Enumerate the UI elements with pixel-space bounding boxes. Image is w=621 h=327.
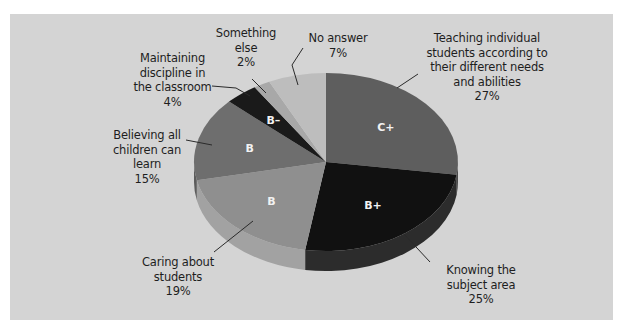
label-teaching: Teaching individual students according t… [412,31,562,104]
grade-label: B [245,142,253,155]
label-knowing: Knowing the subject area 25% [426,263,536,307]
grade-label: B– [266,114,280,127]
label-believing: Believing all children can learn 15% [102,128,192,186]
grade-label: C+ [377,121,394,134]
label-caring: Caring about students 19% [128,255,228,299]
grade-label: B+ [364,199,382,212]
grade-label: B [267,195,275,208]
label-no-answer: No answer 7% [298,31,378,60]
label-something-else: Something else 2% [210,26,282,70]
label-discipline: Maintaining discipline in the classroom … [125,51,220,109]
